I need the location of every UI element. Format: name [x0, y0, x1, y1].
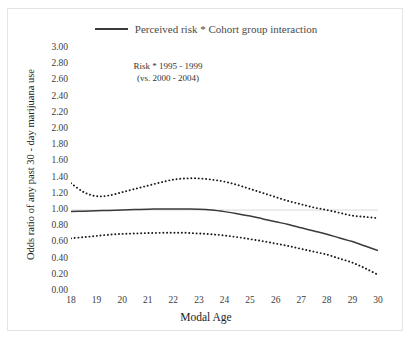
- legend-label: Perceived risk * Cohort group interactio…: [135, 23, 317, 35]
- chart-figure: Perceived risk * Cohort group interactio…: [7, 8, 403, 331]
- y-axis-title: Odds ratio of any past 30 - day marijuan…: [25, 50, 36, 280]
- series-line-0: [71, 209, 378, 251]
- x-axis-tick-labels: 18192021222324252627282930: [71, 295, 378, 309]
- plot-svg: [71, 48, 378, 291]
- x-axis-tick-label: 30: [363, 295, 393, 305]
- series-line-2: [71, 233, 378, 275]
- plot-area: [71, 48, 378, 291]
- legend-line-swatch: [95, 28, 128, 30]
- x-axis-title: Modal Age: [8, 311, 404, 323]
